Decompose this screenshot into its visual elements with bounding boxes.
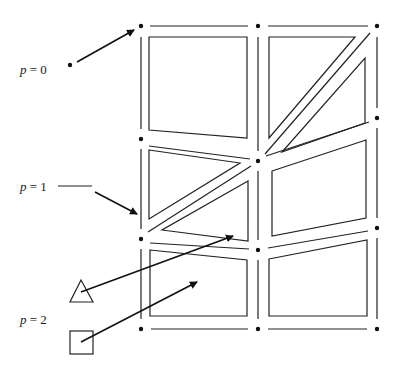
p2-triangle-arrow xyxy=(81,236,233,292)
vertex xyxy=(375,24,379,28)
vertex xyxy=(375,327,379,331)
cell xyxy=(149,37,247,138)
cell xyxy=(150,250,247,316)
vertex xyxy=(256,159,260,163)
label-p0: p = 0 xyxy=(19,62,47,77)
p1-arrow xyxy=(95,192,137,214)
mesh-vertices xyxy=(139,24,379,331)
p0-marker-dot xyxy=(68,63,72,67)
vertex xyxy=(256,327,260,331)
vertex xyxy=(375,116,379,120)
edge xyxy=(148,166,251,232)
label-p2: p = 2 xyxy=(19,312,47,327)
vertex xyxy=(256,24,260,28)
vertex xyxy=(375,226,379,230)
mesh-edges xyxy=(141,26,377,329)
vertex xyxy=(139,237,143,241)
edge xyxy=(265,33,370,154)
cell xyxy=(282,58,365,152)
cell xyxy=(269,37,355,138)
vertex xyxy=(139,24,143,28)
cell xyxy=(272,140,366,236)
mesh-diagram: p = 0 p = 1 p = 2 xyxy=(0,0,401,375)
cell xyxy=(149,150,240,219)
p2-square-arrow xyxy=(81,282,197,342)
cell xyxy=(269,240,367,316)
vertex xyxy=(256,248,260,252)
vertex xyxy=(139,327,143,331)
p0-arrow xyxy=(77,30,134,62)
cell xyxy=(162,181,248,241)
label-p1: p = 1 xyxy=(19,179,47,194)
vertex xyxy=(139,137,143,141)
